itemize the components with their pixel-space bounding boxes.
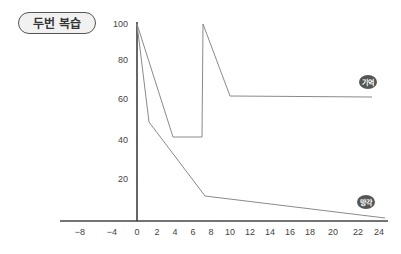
svg-text:6: 6	[190, 227, 195, 237]
svg-text:망각: 망각	[360, 198, 373, 207]
svg-text:24: 24	[374, 227, 384, 237]
y-tick-labels: 100 80 60 40 20	[113, 19, 128, 184]
svg-text:−4: −4	[107, 227, 117, 237]
svg-text:기억: 기억	[362, 78, 374, 87]
svg-text:16: 16	[285, 227, 295, 237]
x-tick-labels: −8 −4 0 2 4 6 8 10 12 14 16 18 20 22 24	[75, 227, 384, 237]
svg-text:0: 0	[134, 227, 139, 237]
svg-text:14: 14	[265, 227, 275, 237]
svg-text:20: 20	[118, 174, 128, 184]
svg-text:2: 2	[154, 227, 159, 237]
svg-text:12: 12	[245, 227, 255, 237]
svg-text:60: 60	[118, 94, 128, 104]
svg-text:80: 80	[118, 55, 128, 65]
svg-text:10: 10	[225, 227, 235, 237]
chart: 100 80 60 40 20 −8 −4 0 2 4 6 8 10 12 14…	[0, 0, 401, 254]
svg-text:18: 18	[305, 227, 315, 237]
svg-text:40: 40	[118, 135, 128, 145]
forgetting-label-badge: 망각	[357, 195, 375, 209]
svg-text:100: 100	[113, 19, 128, 29]
memory-curve	[137, 24, 372, 137]
memory-label-badge: 기억	[359, 75, 377, 89]
svg-text:8: 8	[208, 227, 213, 237]
svg-text:−8: −8	[75, 227, 85, 237]
svg-text:20: 20	[328, 227, 338, 237]
forgetting-curve	[137, 24, 385, 218]
svg-text:4: 4	[172, 227, 177, 237]
svg-text:22: 22	[353, 227, 363, 237]
